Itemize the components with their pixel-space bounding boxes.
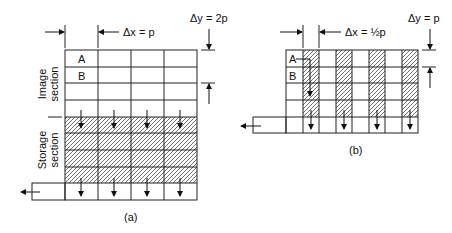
dx-label-b: Δx = ½p (345, 26, 386, 38)
dx-dimension-b: Δx = ½p (280, 25, 386, 48)
figure-b: A B Δx = ½p Δy = p (241, 12, 440, 156)
dy-label-a: Δy = 2p (190, 12, 228, 24)
image-section-label-1: Image (36, 69, 48, 100)
caption-b: (b) (349, 144, 362, 156)
image-section-label-2: section (48, 67, 60, 102)
ccd-transfer-diagram: A B Δx = p (0, 0, 452, 233)
ccd-grid-b (253, 50, 418, 133)
cell-label-b: B (78, 70, 85, 82)
dx-dimension-a: Δx = p (45, 25, 155, 48)
cell-label-a: A (78, 53, 86, 65)
storage-section-label-1: Storage (36, 131, 48, 170)
dy-dimension-a: Δy = 2p (190, 12, 228, 104)
figure-a: A B Δx = p (21, 12, 228, 223)
caption-a: (a) (124, 211, 137, 223)
dy-label-b: Δy = p (408, 12, 440, 24)
readout-register-extension-b (253, 117, 286, 133)
cell-label-b: B (289, 70, 296, 82)
storage-section-label-2: section (48, 133, 60, 168)
dx-label-a: Δx = p (123, 26, 155, 38)
cell-label-a: A (289, 53, 297, 65)
